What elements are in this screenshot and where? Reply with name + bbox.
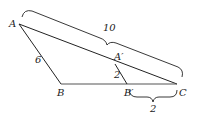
measure-AB: 6	[35, 54, 42, 65]
measure-AC: 10	[103, 22, 116, 33]
brace-AC	[22, 11, 183, 77]
label-A: A	[8, 18, 16, 29]
brace-B-prime-C	[129, 90, 177, 102]
measure-B-prime-C: 2	[149, 103, 156, 114]
measure-A-prime-B-prime: 2	[113, 69, 120, 80]
label-C: C	[179, 87, 187, 98]
label-B-prime: B′	[123, 87, 134, 98]
segment-AC	[19, 24, 177, 84]
label-B: B	[56, 87, 64, 98]
similar-triangles-diagram: A B C A′ B′ 6 10 2 2	[0, 0, 199, 117]
label-A-prime: A′	[113, 51, 124, 62]
